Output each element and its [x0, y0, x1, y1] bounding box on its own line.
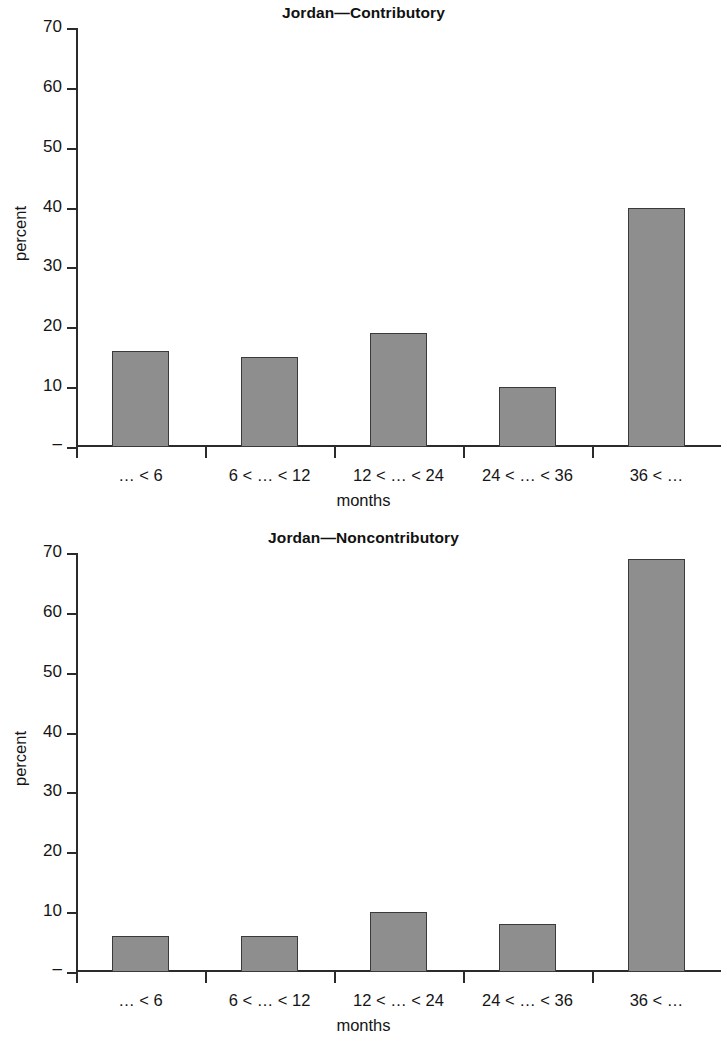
- y-axis-tick-mark: [67, 553, 76, 555]
- chart-title: Jordan—Noncontributory: [0, 529, 727, 547]
- y-axis-tick-label: 70: [43, 542, 62, 562]
- y-axis-title: percent: [11, 719, 30, 799]
- bar: [370, 912, 427, 972]
- y-axis-tick-mark: [67, 28, 76, 30]
- bar: [241, 936, 298, 972]
- y-axis-tick-mark: [67, 792, 76, 794]
- x-axis-category-label: … < 6: [118, 991, 162, 1010]
- y-axis-tick-label: 20: [43, 316, 62, 336]
- x-axis-category-label: 24 < … < 36: [482, 991, 573, 1010]
- x-axis-category-label: 36 < …: [630, 991, 684, 1010]
- y-axis-tick-mark: [67, 912, 76, 914]
- x-axis-tick-mark: [205, 447, 207, 458]
- y-axis-tick-label: 40: [43, 722, 62, 742]
- y-axis-tick-mark: [67, 733, 76, 735]
- x-axis-tick-mark: [76, 447, 78, 458]
- y-axis-tick-mark: [67, 972, 76, 974]
- bar: [628, 208, 685, 447]
- x-axis-tick-mark: [205, 972, 207, 983]
- bar: [370, 333, 427, 447]
- y-axis-line: [76, 553, 78, 972]
- y-axis-line: [76, 28, 78, 447]
- y-axis-tick-mark: [67, 852, 76, 854]
- y-axis-tick-mark: [67, 447, 76, 449]
- y-axis-tick-label: 10: [43, 901, 62, 921]
- bar: [499, 924, 556, 972]
- x-axis-title: months: [0, 491, 727, 510]
- y-axis-tick-mark: [67, 148, 76, 150]
- x-axis-tick-mark: [76, 972, 78, 983]
- y-axis-tick-mark: [67, 88, 76, 90]
- y-axis-tick-label: 20: [43, 841, 62, 861]
- y-axis-tick-label: –: [53, 959, 62, 979]
- x-axis-tick-mark: [463, 972, 465, 983]
- bar: [628, 559, 685, 972]
- x-axis-category-label: 36 < …: [630, 466, 684, 485]
- y-axis-tick-label: –: [53, 434, 62, 454]
- y-axis-tick-label: 50: [43, 137, 62, 157]
- x-axis-tick-mark: [334, 447, 336, 458]
- y-axis-tick-label: 50: [43, 662, 62, 682]
- bar: [112, 936, 169, 972]
- x-axis-category-label: 24 < … < 36: [482, 466, 573, 485]
- x-axis-category-label: 12 < … < 24: [353, 991, 444, 1010]
- x-axis-category-label: … < 6: [118, 466, 162, 485]
- y-axis-tick-mark: [67, 673, 76, 675]
- y-axis-tick-mark: [67, 327, 76, 329]
- x-axis-title: months: [0, 1016, 727, 1035]
- plot-area: –10203040506070: [76, 553, 721, 972]
- x-axis-tick-mark: [592, 972, 594, 983]
- x-axis-tick-mark: [463, 447, 465, 458]
- y-axis-tick-mark: [67, 267, 76, 269]
- y-axis-tick-label: 70: [43, 17, 62, 37]
- bar: [112, 351, 169, 447]
- plot-area: –10203040506070: [76, 28, 721, 447]
- y-axis-tick-label: 60: [43, 602, 62, 622]
- bar: [499, 387, 556, 447]
- x-axis-tick-mark: [592, 447, 594, 458]
- y-axis-tick-mark: [67, 387, 76, 389]
- y-axis-tick-label: 40: [43, 197, 62, 217]
- y-axis-tick-label: 10: [43, 376, 62, 396]
- y-axis-title: percent: [11, 194, 30, 274]
- bar: [241, 357, 298, 447]
- x-axis-category-label: 12 < … < 24: [353, 466, 444, 485]
- x-axis-category-label: 6 < … < 12: [229, 991, 311, 1010]
- y-axis-tick-label: 30: [43, 781, 62, 801]
- chart-panel-contributory: Jordan—Contributory percent –10203040506…: [0, 0, 727, 520]
- y-axis-tick-label: 60: [43, 77, 62, 97]
- x-axis-tick-mark: [334, 972, 336, 983]
- chart-title: Jordan—Contributory: [0, 4, 727, 22]
- y-axis-tick-mark: [67, 208, 76, 210]
- x-axis-category-label: 6 < … < 12: [229, 466, 311, 485]
- y-axis-tick-mark: [67, 613, 76, 615]
- chart-panel-noncontributory: Jordan—Noncontributory percent –10203040…: [0, 520, 727, 1050]
- y-axis-tick-label: 30: [43, 256, 62, 276]
